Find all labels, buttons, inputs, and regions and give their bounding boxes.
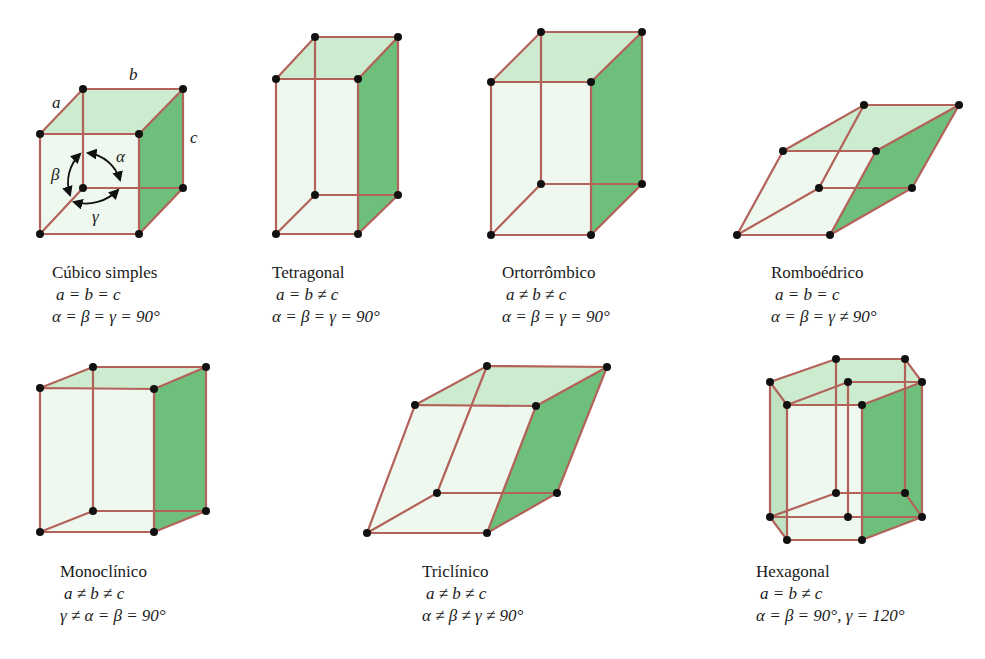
rhombohedral-cell: [733, 101, 963, 239]
caption-hexagonal: Hexagonal a = b ≠ c α = β = 90°, γ = 120…: [756, 561, 905, 627]
system-name: Cúbico simples: [52, 262, 160, 284]
triclinic-cell: [363, 362, 611, 537]
label-b: b: [129, 65, 138, 84]
caption-monoclinic: Monoclínico a ≠ b ≠ c γ ≠ α = β = 90°: [60, 561, 166, 627]
caption-cubic: Cúbico simples a = b = c α = β = γ = 90°: [52, 262, 160, 328]
hexagonal-cell: [766, 355, 926, 544]
length-relation: a ≠ b ≠ c: [502, 284, 610, 306]
caption-tetragonal: Tetragonal a = b ≠ c α = β = γ = 90°: [272, 262, 380, 328]
caption-triclinic: Triclínico a ≠ b ≠ c α ≠ β ≠ γ ≠ 90°: [422, 561, 523, 627]
label-c: c: [190, 128, 198, 147]
length-relation: a ≠ b ≠ c: [60, 583, 166, 605]
length-relation: a ≠ b ≠ c: [422, 583, 523, 605]
tetragonal-cell: [272, 33, 402, 238]
system-name: Hexagonal: [756, 561, 905, 583]
angle-relation: α ≠ β ≠ γ ≠ 90°: [422, 605, 523, 627]
angle-relation: α = β = γ = 90°: [52, 306, 160, 328]
angle-relation: α = β = 90°, γ = 120°: [756, 605, 905, 627]
system-name: Ortorrômbico: [502, 262, 610, 284]
system-name: Tetragonal: [272, 262, 380, 284]
length-relation: a = b = c: [771, 284, 877, 306]
monoclinic-cell: [36, 363, 210, 536]
length-relation: a = b = c: [52, 284, 160, 306]
label-beta: β: [50, 165, 60, 184]
length-relation: a = b ≠ c: [756, 583, 905, 605]
length-relation: a = b ≠ c: [272, 284, 380, 306]
angle-relation: γ ≠ α = β = 90°: [60, 605, 166, 627]
angle-relation: α = β = γ = 90°: [272, 306, 380, 328]
orthorhombic-cell: [487, 28, 646, 239]
caption-rhombohedral: Romboédrico a = b = c α = β = γ ≠ 90°: [771, 262, 877, 328]
angle-relation: α = β = γ ≠ 90°: [771, 306, 877, 328]
label-alpha: α: [116, 147, 126, 166]
cubic-cell: a b c α β γ: [36, 65, 198, 238]
caption-orthorhombic: Ortorrômbico a ≠ b ≠ c α = β = γ = 90°: [502, 262, 610, 328]
angle-relation: α = β = γ = 90°: [502, 306, 610, 328]
label-a: a: [52, 93, 61, 112]
system-name: Triclínico: [422, 561, 523, 583]
system-name: Monoclínico: [60, 561, 166, 583]
system-name: Romboédrico: [771, 262, 877, 284]
